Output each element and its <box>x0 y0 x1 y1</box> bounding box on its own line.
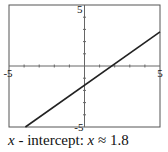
x-tick-label-max: 5 <box>157 67 163 79</box>
caption-text: - intercept: <box>15 132 88 148</box>
chart: -555-5 <box>0 0 168 132</box>
caption-var-x: x <box>8 132 15 148</box>
x-intercept-caption: x - intercept: x ≈ 1.8 <box>8 132 129 149</box>
x-tick-label-min: -5 <box>3 67 13 79</box>
caption-value: 1.8 <box>110 132 129 148</box>
series-line <box>25 32 160 127</box>
y-tick-label-max: 5 <box>77 3 83 15</box>
y-tick-label-min: -5 <box>74 121 84 132</box>
caption-approx: ≈ <box>94 132 110 148</box>
